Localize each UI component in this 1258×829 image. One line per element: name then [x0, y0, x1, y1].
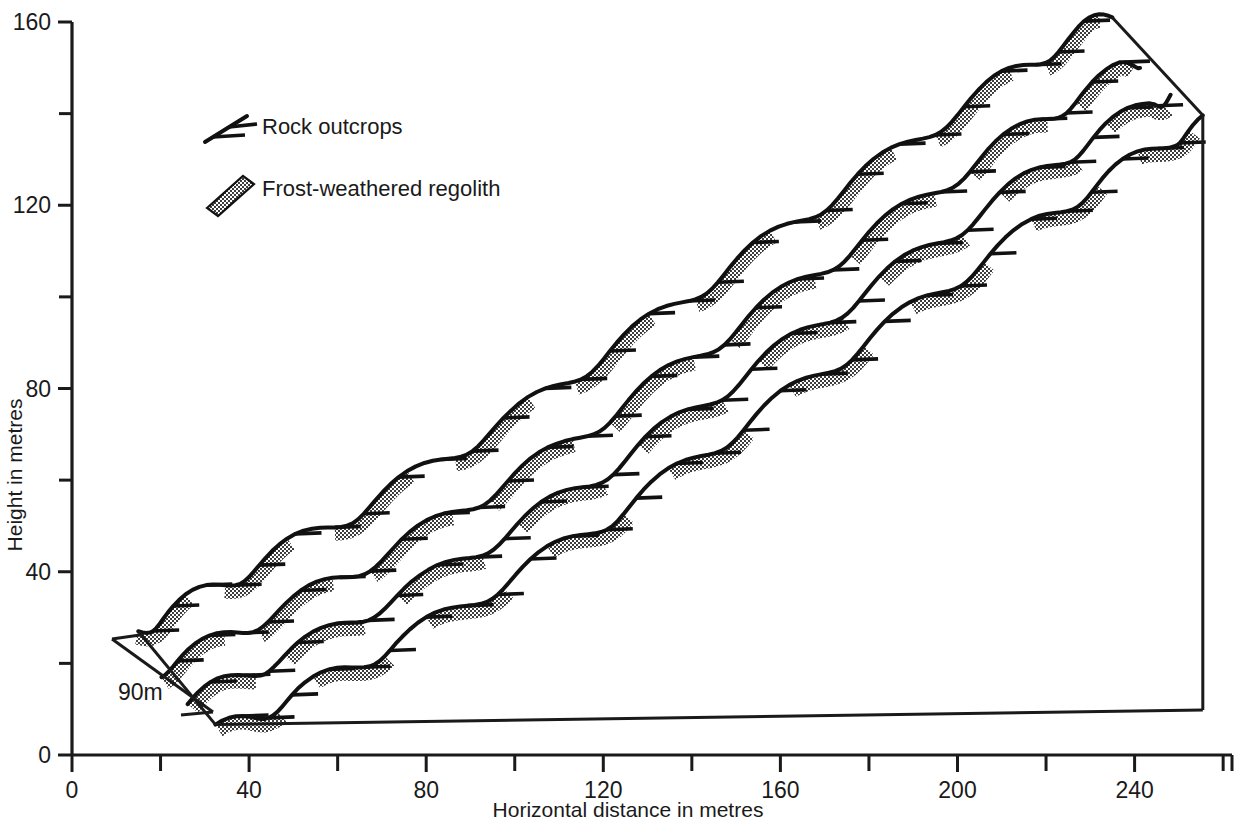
- rock-outcrop-tick: [337, 622, 363, 623]
- legend: Rock outcropsFrost-weathered regolith: [205, 114, 500, 216]
- y-axis-tick-label: 120: [13, 192, 51, 218]
- rock-outcrop-tick: [259, 564, 285, 565]
- rock-outcrop-tick: [153, 630, 179, 631]
- rock-outcrop-tick: [1067, 210, 1093, 211]
- rock-outcrop-tick: [269, 717, 295, 718]
- rock-outcrop-tick: [830, 322, 856, 323]
- rock-outcrop-tick: [243, 715, 269, 716]
- rock-outcrop-tick: [1092, 191, 1118, 192]
- y-axis-tick-label: 0: [38, 742, 51, 768]
- rock-outcrop-tick: [268, 621, 294, 622]
- rock-outcrop-tick: [295, 533, 321, 534]
- rock-outcrop-tick: [399, 476, 425, 477]
- x-axis-tick-label: 200: [938, 777, 976, 803]
- rock-outcrop-tick: [1123, 158, 1149, 159]
- x-axis-title: Horizontal distance in metres: [493, 798, 764, 821]
- rock-outcrop-tick: [426, 616, 452, 617]
- rock-outcrop-tick: [968, 229, 994, 230]
- rock-outcrop-tick: [583, 486, 609, 487]
- rock-outcrop-tick: [689, 300, 715, 301]
- rock-outcrop-tick: [724, 344, 750, 345]
- legend-item-frost-weathered-regolith[interactable]: Frost-weathered regolith: [207, 176, 500, 216]
- rock-outcrop-tick: [1003, 133, 1029, 134]
- terrain-profile: [161, 61, 1149, 689]
- regolith-band-patch: [224, 538, 294, 599]
- rock-outcrop-tick: [587, 435, 613, 436]
- rock-outcrop-tick: [693, 356, 719, 357]
- regolith-band-patch: [638, 400, 729, 454]
- rock-outcrop-tick: [397, 595, 423, 596]
- rock-outcrop-tick: [581, 378, 607, 379]
- rock-outcrop-tick: [1094, 136, 1120, 137]
- y-axis-tick-label: 160: [13, 9, 51, 35]
- terrain-profile: [135, 14, 1112, 646]
- rock-outcrop-tick: [610, 350, 636, 351]
- rock-outcrop-tick: [935, 134, 961, 135]
- rock-outcrop-tick: [822, 373, 848, 374]
- rock-outcrop-tick: [1041, 118, 1067, 119]
- rock-outcrop-tick: [1070, 161, 1096, 162]
- barbed-line-icon: [205, 116, 247, 142]
- rock-outcrop-tick: [607, 529, 633, 530]
- rock-outcrop-tick: [795, 221, 821, 222]
- rock-outcrop-tick: [902, 203, 928, 204]
- depth-scale-label: 90m: [118, 679, 163, 705]
- rock-outcrop-tick: [616, 415, 642, 416]
- regolith-band-patch: [335, 471, 415, 541]
- rock-outcrop-tick: [1040, 166, 1066, 167]
- rock-outcrop-tick: [340, 576, 366, 577]
- rock-outcrop-tick: [780, 390, 806, 391]
- rock-outcrop-tick: [236, 584, 262, 585]
- barbed-line-icon-tick-lower: [213, 135, 245, 137]
- rock-outcrop-tick: [885, 320, 911, 321]
- y-axis-tick-label: 40: [25, 559, 51, 585]
- y-axis-tick-label: 80: [25, 376, 51, 402]
- rock-outcrop-tick: [941, 191, 967, 192]
- rock-outcrop-tick: [858, 173, 884, 174]
- legend-label-rock-outcrops: Rock outcrops: [262, 114, 403, 139]
- rock-outcrop-tick: [541, 501, 567, 502]
- rock-outcrop-tick: [1059, 51, 1085, 52]
- rock-outcrop-tick: [718, 281, 744, 282]
- rock-outcrop-tick: [852, 359, 878, 360]
- rock-outcrop-tick: [636, 497, 662, 498]
- rock-outcrop-tick: [298, 642, 324, 643]
- rock-outcrop-tick: [688, 408, 714, 409]
- figure-block-diagram: 0408012016004080120160200240 90m Rock ou…: [0, 0, 1258, 829]
- rock-outcrop-tick: [964, 106, 990, 107]
- rock-outcrop-tick: [651, 375, 677, 376]
- rock-outcrop-tick: [859, 300, 885, 301]
- regolith-band-patch: [1045, 14, 1100, 75]
- rock-outcrop-tick: [335, 526, 361, 527]
- rock-outcrop-tick: [444, 513, 470, 514]
- block-base-edge: [215, 710, 1202, 725]
- rock-outcrop-tick: [402, 538, 428, 539]
- rock-outcrop-tick: [531, 558, 557, 559]
- rock-outcrop-tick: [862, 239, 888, 240]
- rock-outcrop-tick: [292, 694, 318, 695]
- rock-outcrop-tick: [751, 368, 777, 369]
- rock-outcrop-tick: [900, 143, 926, 144]
- rock-outcrop-tick: [645, 436, 671, 437]
- rock-outcrop-tick: [1158, 147, 1184, 148]
- rock-outcrop-tick: [548, 446, 574, 447]
- terrain-profile: [215, 115, 1205, 736]
- x-axis-tick-label: 160: [761, 777, 799, 803]
- y-axis-title: Height in metres: [3, 399, 26, 552]
- rock-outcrop-tick: [895, 260, 921, 261]
- rock-outcrop-tick: [476, 556, 502, 557]
- rock-outcrop-tick: [1084, 20, 1110, 21]
- rock-outcrop-tick: [792, 333, 818, 334]
- rock-outcrop-tick: [1000, 191, 1026, 192]
- x-axis-tick-label: 0: [66, 777, 79, 803]
- rock-outcrop-tick: [301, 589, 327, 590]
- rock-outcrop-tick: [827, 209, 853, 210]
- legend-item-rock-outcrops[interactable]: Rock outcrops: [205, 114, 403, 142]
- rock-outcrop-tick: [722, 399, 748, 400]
- rock-outcrop-tick: [504, 417, 530, 418]
- rock-outcrop-tick: [269, 670, 295, 671]
- stippled-band-icon: [207, 176, 254, 216]
- regolith-band-patch: [455, 397, 535, 471]
- rock-outcrop-tick: [244, 674, 270, 675]
- rock-outcrop-tick: [390, 649, 416, 650]
